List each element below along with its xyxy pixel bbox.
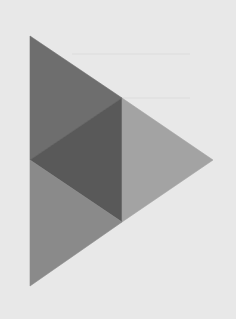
triangle-facets	[30, 36, 213, 286]
play-triangle-icon	[0, 0, 236, 319]
image-canvas	[0, 0, 236, 319]
right-facet	[122, 98, 213, 222]
